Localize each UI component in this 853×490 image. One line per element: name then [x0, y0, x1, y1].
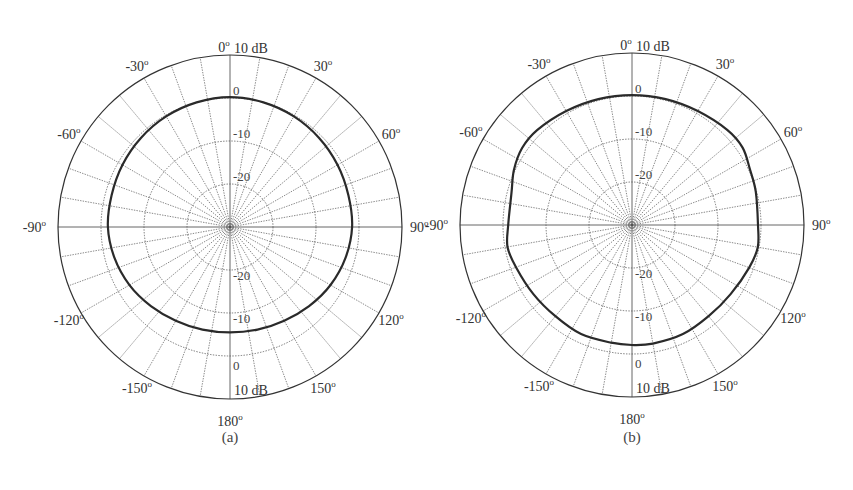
angle-label: 0o	[620, 36, 632, 53]
ring-label-lower: 0	[233, 358, 240, 373]
ring-label-lower: -10	[233, 311, 250, 326]
ring-label-lower: -20	[635, 266, 652, 281]
ring-label-upper: -10	[233, 126, 250, 141]
polar-figure: 0o30o60o90o120o150o180o-150o-120o-90o-60…	[0, 0, 853, 490]
angle-label: 90o	[812, 216, 831, 233]
ring-label-upper: -20	[233, 169, 250, 184]
angle-label: 150o	[310, 379, 336, 396]
angle-label: -60o	[459, 123, 483, 140]
outer-ring-label-bottom: 10 dB	[636, 381, 670, 396]
angle-label: 60o	[784, 123, 803, 140]
polar-chart-b: 0o30o60o90o120o150o180o-150o-120o-90o-60…	[425, 36, 831, 446]
angle-label: 180o	[217, 412, 243, 429]
panel-caption: (b)	[623, 429, 641, 446]
angle-label: 0o	[218, 38, 230, 55]
ring-label-lower: -20	[233, 268, 250, 283]
ring-label-upper: -10	[635, 124, 652, 139]
angle-label: -30o	[125, 57, 149, 74]
ring-label-upper: 0	[635, 81, 642, 96]
angle-label: -120o	[456, 309, 487, 326]
outer-ring-label-bottom: 10 dB	[234, 383, 268, 398]
ring-label-lower: -10	[635, 309, 652, 324]
angle-label: -150o	[524, 377, 555, 394]
radial-gridlines	[58, 55, 402, 399]
panel-caption: (a)	[222, 429, 239, 446]
ring-label-lower: 0	[635, 356, 642, 371]
angle-label: 30o	[716, 55, 735, 72]
angle-label: 180o	[619, 410, 645, 427]
angle-label: 120o	[378, 311, 404, 328]
polar-chart-a: 0o30o60o90o120o150o180o-150o-120o-90o-60…	[23, 38, 429, 446]
ring-label-upper: -20	[635, 167, 652, 182]
angle-label: 60o	[382, 125, 401, 142]
pattern-curve	[507, 95, 759, 345]
angle-label: 120o	[780, 309, 806, 326]
angle-label: -60o	[57, 125, 81, 142]
angle-label: -90o	[23, 218, 47, 235]
outer-ring-label-top: 10 dB	[234, 41, 268, 56]
angle-label: -150o	[122, 379, 153, 396]
angle-label: -120o	[54, 311, 85, 328]
angle-label: 150o	[712, 377, 738, 394]
angle-label: -90o	[425, 216, 449, 233]
ring-label-upper: 0	[233, 83, 240, 98]
angle-label: -30o	[527, 55, 551, 72]
angle-label: 30o	[314, 57, 333, 74]
outer-ring-label-top: 10 dB	[636, 39, 670, 54]
